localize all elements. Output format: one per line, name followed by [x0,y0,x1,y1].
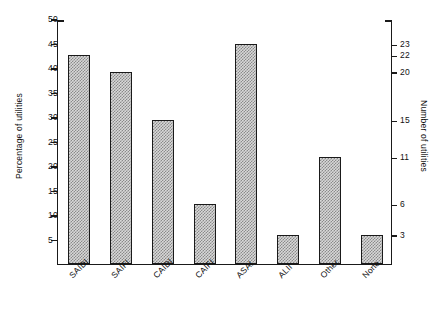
bar-asai [235,44,257,264]
bar-other [319,157,341,264]
bar-saidi [68,55,90,264]
y-ticklabel-right-6: 6 [400,199,405,209]
plot-area [57,20,392,265]
bar-alii [277,235,299,264]
y-ticklabel-right-22: 22 [400,50,410,60]
y-axis-right-title: Number of utilities [419,81,429,191]
bar-chart: Percentage of utilities Number of utilit… [0,0,445,320]
bar-saifi [110,72,132,264]
bar-caidi [152,120,174,264]
y-ticklabel-right-11: 11 [400,152,409,162]
y-ticklabel-right-3: 3 [400,230,405,240]
y-ticklabel-right-23: 23 [400,39,410,49]
y-ticklabel-right-20: 20 [400,67,410,77]
y-ticklabel-right-15: 15 [400,115,410,125]
y-axis-left-title: Percentage of utilities [14,81,24,191]
bar-caifi [194,204,216,264]
